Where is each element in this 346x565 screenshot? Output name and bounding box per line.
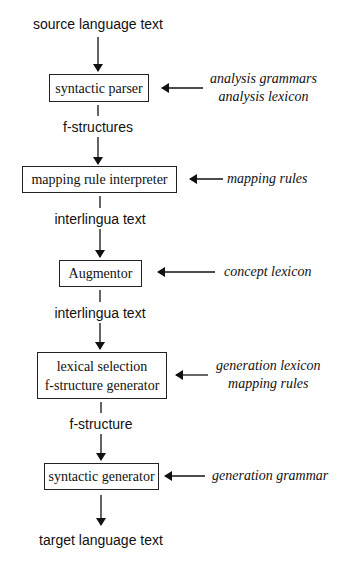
augmentor-box: Augmentor: [59, 260, 142, 287]
resource-label: analysis lexicon: [210, 88, 317, 106]
intermediate-label: interlingua text: [54, 211, 145, 227]
resource-label: mapping rules: [216, 375, 321, 393]
stage-label: syntactic generator: [48, 467, 154, 486]
stage-label: mapping rule interpreter: [31, 170, 167, 189]
intermediate-label: f-structure: [69, 416, 132, 432]
intermediate-label: interlingua text: [54, 305, 145, 321]
stage-label: Augmentor: [69, 264, 133, 283]
resource-label: generation lexicon: [216, 357, 321, 375]
target-text-label: target language text: [39, 532, 163, 548]
resource-label: concept lexicon: [224, 263, 311, 281]
resource-label: mapping rules: [227, 170, 308, 188]
syntactic-generator-box: syntactic generator: [44, 463, 159, 490]
lexical-selection-box: lexical selection f-structure generator: [37, 352, 167, 399]
resource-label: generation grammar: [212, 467, 328, 485]
analysis-resources: analysis grammars analysis lexicon: [210, 70, 317, 106]
source-text-label: source language text: [33, 16, 163, 32]
grammar-resources: generation grammar: [212, 467, 328, 485]
mapping-rule-interpreter-box: mapping rule interpreter: [22, 166, 177, 193]
mapping-resources: mapping rules: [227, 170, 308, 188]
intermediate-label: f-structures: [63, 119, 133, 135]
augmentor-resources: concept lexicon: [224, 263, 311, 281]
syntactic-parser-box: syntactic parser: [49, 74, 149, 102]
resource-label: analysis grammars: [210, 70, 317, 88]
stage-label: f-structure generator: [45, 376, 160, 395]
generation-resources: generation lexicon mapping rules: [216, 357, 321, 393]
stage-label: syntactic parser: [55, 79, 142, 98]
stage-label: lexical selection: [57, 357, 148, 376]
